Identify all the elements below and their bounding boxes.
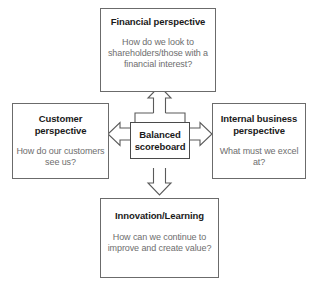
node-internal-title: Internal business perspective [213,113,305,136]
balanced-scorecard-diagram: Financial perspective How do we look to … [0,0,315,286]
node-internal-business-perspective: Internal business perspective What must … [212,103,306,179]
node-internal-body: What must we excel at? [213,146,305,168]
node-balanced-scoreboard-center: Balanced scoreboard [130,122,190,159]
node-financial-body: How do we look to shareholders/those wit… [101,37,215,70]
node-customer-body: How do our customers see us? [13,146,108,168]
node-innovation-title: Innovation/Learning [115,210,204,222]
node-innovation-body: How can we continue to improve and creat… [101,232,218,254]
node-financial-title: Financial perspective [111,16,206,28]
node-financial-perspective: Financial perspective How do we look to … [100,8,216,92]
node-customer-title: Customer perspective [13,113,108,136]
arrow-down-icon [148,168,171,195]
center-label: Balanced scoreboard [131,129,189,153]
node-innovation-learning: Innovation/Learning How can we continue … [100,198,219,278]
node-customer-perspective: Customer perspective How do our customer… [12,103,109,179]
